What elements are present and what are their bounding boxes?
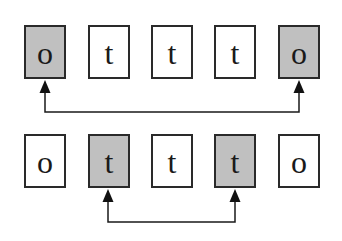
connector-row-2	[103, 189, 241, 222]
connector-layer	[0, 0, 342, 241]
arrowhead-up-icon	[294, 80, 305, 93]
connector-line	[45, 88, 299, 112]
arrowhead-up-icon	[230, 189, 241, 202]
connector-line	[108, 197, 235, 222]
arrowhead-up-icon	[40, 80, 51, 93]
arrowhead-up-icon	[103, 189, 114, 202]
connector-row-1	[40, 80, 305, 112]
